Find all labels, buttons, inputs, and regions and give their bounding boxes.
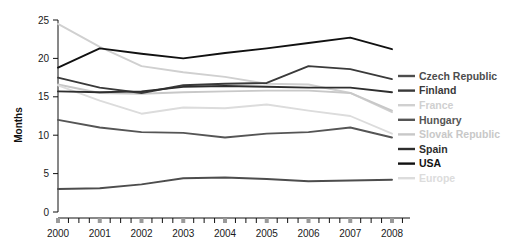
- x-tick-label: 2007: [339, 228, 362, 239]
- x-tick-label: 2005: [256, 228, 279, 239]
- legend-label: Hungary: [419, 114, 462, 126]
- y-tick-label: 15: [38, 91, 50, 102]
- series-line: [58, 177, 392, 189]
- y-tick-label: 25: [38, 15, 50, 26]
- series-line: [58, 38, 392, 68]
- x-tick-label: 2008: [381, 228, 404, 239]
- series-lines: [58, 24, 392, 189]
- line-chart-figure: 0510152025 20002001200220032004200520062…: [0, 0, 510, 250]
- y-axis-title: Months: [13, 107, 24, 143]
- x-tick-label: 2002: [130, 228, 153, 239]
- series-line: [58, 120, 392, 138]
- y-tick-label: 10: [38, 130, 50, 141]
- x-tick-label: 2006: [297, 228, 320, 239]
- series-line: [58, 66, 392, 93]
- x-axis: 200020012002200320042005200620072008: [47, 218, 410, 239]
- legend-label: Slovak Republic: [419, 128, 500, 140]
- legend-label: USA: [419, 157, 442, 169]
- legend-label: Europe: [419, 172, 455, 184]
- chart-legend: Czech RepublicFinlandFranceHungarySlovak…: [398, 70, 500, 184]
- x-tick-label: 2001: [89, 228, 112, 239]
- legend-label: Spain: [419, 143, 448, 155]
- legend-label: Finland: [419, 84, 456, 96]
- y-tick-label: 20: [38, 53, 50, 64]
- y-tick-label: 5: [43, 168, 49, 179]
- chart-canvas: 0510152025 20002001200220032004200520062…: [0, 0, 510, 250]
- legend-label: Czech Republic: [419, 70, 497, 82]
- legend-label: France: [419, 99, 454, 111]
- y-axis: 0510152025: [38, 15, 58, 218]
- x-tick-label: 2000: [47, 228, 70, 239]
- x-tick-label: 2003: [172, 228, 195, 239]
- x-tick-label: 2004: [214, 228, 237, 239]
- y-tick-label: 0: [43, 207, 49, 218]
